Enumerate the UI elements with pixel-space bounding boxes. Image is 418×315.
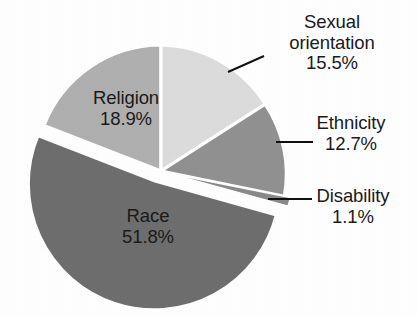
pie-label-disability-name: Disability	[292, 186, 414, 207]
pie-label-ethnicity-value: 12.7%	[288, 134, 414, 155]
pie-label-ethnicity: Ethnicity 12.7%	[288, 113, 414, 154]
pie-label-race: Race 51.8%	[96, 206, 200, 247]
pie-label-race-value: 51.8%	[96, 227, 200, 248]
pie-label-disability: Disability 1.1%	[292, 186, 414, 227]
pie-label-disability-value: 1.1%	[292, 207, 414, 228]
pie-label-sexual-orientation: Sexual orientation 15.5%	[250, 12, 414, 74]
pie-label-religion: Religion 18.9%	[74, 88, 178, 129]
pie-label-religion-value: 18.9%	[74, 109, 178, 130]
pie-label-sexual-orientation-name-line1: Sexual	[250, 12, 414, 33]
pie-label-race-name: Race	[96, 206, 200, 227]
pie-label-sexual-orientation-value: 15.5%	[250, 53, 414, 74]
pie-label-sexual-orientation-name-line2: orientation	[250, 33, 414, 54]
pie-label-religion-name: Religion	[74, 88, 178, 109]
pie-chart-figure: Religion 18.9% Race 51.8% Sexual orienta…	[0, 0, 418, 315]
pie-label-ethnicity-name: Ethnicity	[288, 113, 414, 134]
